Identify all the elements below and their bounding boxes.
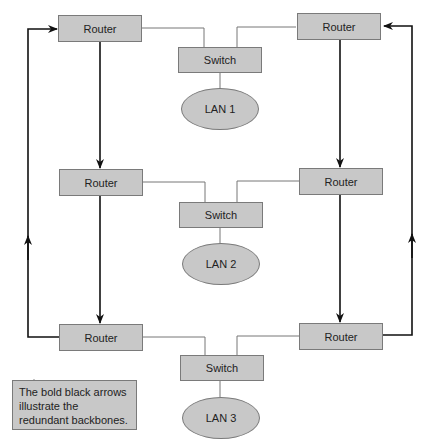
router-middle-left: Router — [59, 169, 143, 196]
switch-3: Switch — [180, 355, 264, 381]
switch-label: Switch — [205, 209, 237, 221]
router-label: Router — [84, 177, 117, 189]
switch-1: Switch — [178, 47, 262, 73]
router-label: Router — [84, 332, 117, 344]
lan-label: LAN 2 — [206, 258, 237, 270]
router-top-left: Router — [58, 15, 142, 42]
router-label: Router — [322, 21, 355, 33]
switch-label: Switch — [204, 54, 236, 66]
switch-label: Switch — [206, 362, 238, 374]
lan-3: LAN 3 — [182, 397, 260, 439]
switch-2: Switch — [179, 202, 263, 228]
lan-label: LAN 3 — [206, 412, 237, 424]
lan-label: LAN 1 — [205, 103, 236, 115]
note-text: The bold black arrows illustrate the red… — [19, 386, 128, 426]
router-top-right: Router — [297, 13, 381, 40]
lan-1: LAN 1 — [181, 88, 259, 130]
router-label: Router — [324, 176, 357, 188]
legend-note: The bold black arrows illustrate the red… — [12, 380, 137, 430]
router-label: Router — [324, 331, 357, 343]
router-bottom-left: Router — [59, 324, 143, 351]
router-middle-right: Router — [299, 168, 383, 195]
router-bottom-right: Router — [299, 323, 383, 350]
lan-2: LAN 2 — [182, 243, 260, 285]
router-label: Router — [83, 23, 116, 35]
